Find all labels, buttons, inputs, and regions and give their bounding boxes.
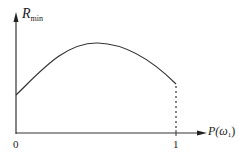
x-axis-label: P(ω1) [208, 124, 235, 139]
y-axis-arrow-icon [14, 12, 19, 22]
y-axis-label-main: R [22, 6, 31, 21]
y-axis-label-subscript: min [31, 14, 43, 23]
y-axis-label: Rmin [22, 6, 43, 23]
diagram-canvas [0, 0, 238, 163]
origin-label: 0 [13, 138, 19, 150]
x-axis-arrow-icon [197, 131, 207, 136]
x-tick-label-1: 1 [173, 138, 179, 150]
x-axis-label-main: P(ω [208, 124, 228, 138]
x-axis-label-close: ) [231, 124, 235, 138]
rmin-curve [16, 43, 176, 95]
